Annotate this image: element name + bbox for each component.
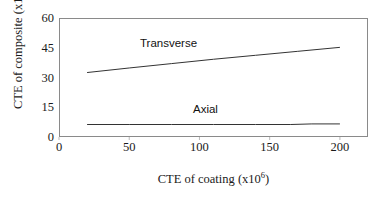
- x-axis-label-tail: ): [265, 172, 269, 186]
- plot-lines: [0, 0, 385, 199]
- x-axis-label-text: CTE of coating (x10: [158, 172, 261, 186]
- series-label-axial: Axial: [193, 103, 218, 115]
- series-line-axial: [87, 124, 340, 125]
- series-label-transverse: Transverse: [140, 37, 197, 49]
- x-axis-label: CTE of coating (x106): [59, 172, 368, 187]
- x-axis-tick-marks: [59, 137, 340, 140]
- series-line-transverse: [87, 47, 340, 72]
- chart-figure: CTE of composite (x106) 60 45 30 15 0 0 …: [0, 0, 385, 199]
